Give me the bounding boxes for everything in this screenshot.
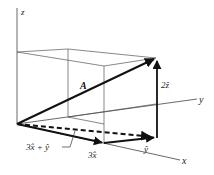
vector-3x [17, 124, 102, 143]
z-axis-label: z [20, 7, 25, 17]
sum-vector-3x-plus-y [17, 124, 150, 137]
vector-y-label: ŷ [143, 144, 148, 154]
vector-2z-label: 2ẑ [161, 80, 170, 90]
vector-A-label: A [79, 80, 87, 91]
axes [17, 8, 197, 160]
vector-y [104, 138, 154, 144]
vector-3x-label: 3x̂ [87, 150, 97, 160]
x-axis-label: x [181, 155, 187, 166]
y-axis-label: y [198, 94, 204, 105]
sum-vector-label: 3x̂ + ŷ [25, 142, 49, 152]
vector-diagram: z y x A 2ẑ 3x̂ ŷ 3x̂ + ŷ [0, 0, 214, 175]
